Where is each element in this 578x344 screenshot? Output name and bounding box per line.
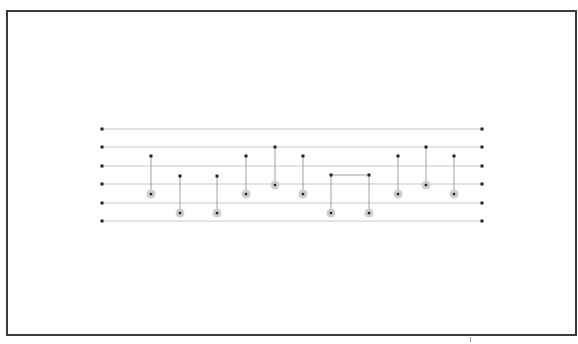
target-dot-icon [425, 184, 427, 186]
comparator-gate [176, 175, 185, 218]
comparator-gate [422, 146, 431, 190]
control-dot-icon [453, 155, 456, 158]
comparator-gate [147, 155, 156, 199]
target-dot-icon [245, 193, 247, 195]
target-dot-icon [216, 212, 218, 214]
target-dot-icon [179, 212, 181, 214]
target-dot-icon [397, 193, 399, 195]
sorting-network-diagram [0, 0, 578, 344]
control-dot-icon [425, 146, 428, 149]
wire-start-dot-icon [101, 146, 104, 149]
comparator-gate [450, 155, 459, 199]
wire-start-dot-icon [101, 128, 104, 131]
control-dot-icon [216, 175, 219, 178]
wire-start-dot-icon [101, 220, 104, 223]
wire-end-dot-icon [481, 146, 484, 149]
control-dot-icon [150, 155, 153, 158]
target-dot-icon [274, 184, 276, 186]
cursor-tick-mark [470, 337, 471, 342]
wire-start-dot-icon [101, 183, 104, 186]
comparator-gate [365, 174, 374, 218]
control-dot-icon [397, 155, 400, 158]
comparator-gate [213, 175, 222, 218]
control-dot-icon [245, 155, 248, 158]
target-dot-icon [368, 212, 370, 214]
wire-end-dot-icon [481, 128, 484, 131]
comparator-gate [242, 155, 251, 199]
wire-start-dot-icon [101, 202, 104, 205]
target-dot-icon [453, 193, 455, 195]
target-dot-icon [150, 193, 152, 195]
comparator-gate [327, 174, 370, 218]
gates-group [147, 146, 459, 218]
control-dot-icon [274, 146, 277, 149]
comparator-gate [271, 146, 280, 190]
wire-end-dot-icon [481, 165, 484, 168]
control-dot-icon [368, 174, 371, 177]
target-dot-icon [302, 193, 304, 195]
comparator-gate [299, 155, 308, 199]
wire-start-dot-icon [101, 165, 104, 168]
target-dot-icon [330, 212, 332, 214]
wire-end-dot-icon [481, 202, 484, 205]
control-dot-icon [330, 174, 333, 177]
comparator-gate [394, 155, 403, 199]
wire-end-dot-icon [481, 220, 484, 223]
wire-end-dot-icon [481, 183, 484, 186]
control-dot-icon [179, 175, 182, 178]
control-dot-icon [302, 155, 305, 158]
